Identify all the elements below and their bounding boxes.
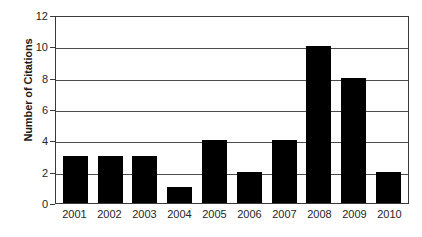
bar-slot — [371, 17, 406, 203]
x-tick-label-2004: 2004 — [162, 207, 197, 223]
bar-2006 — [237, 172, 262, 203]
x-tick-label-2001: 2001 — [57, 207, 92, 223]
bar-2001 — [63, 156, 88, 203]
bar-slot — [267, 17, 302, 203]
bar-2003 — [132, 156, 157, 203]
x-axis-labels: 2001200220032004200520062007200820092010 — [55, 207, 409, 223]
y-tick-mark — [50, 204, 55, 205]
x-tick-label-2010: 2010 — [372, 207, 407, 223]
bars-layer — [56, 17, 408, 203]
bar-slot — [162, 17, 197, 203]
plot-area — [55, 16, 409, 204]
citations-bar-chart: Number of Citations 024681012 2001200220… — [0, 0, 422, 237]
x-tick-label-2003: 2003 — [127, 207, 162, 223]
y-tick-label: 4 — [8, 136, 48, 146]
bar-slot — [58, 17, 93, 203]
bar-2004 — [167, 187, 192, 203]
bar-slot — [336, 17, 371, 203]
y-tick-label: 10 — [8, 42, 48, 52]
y-tick-label: 0 — [8, 199, 48, 209]
bar-slot — [232, 17, 267, 203]
x-tick-label-2009: 2009 — [337, 207, 372, 223]
bar-slot — [197, 17, 232, 203]
bar-2009 — [341, 78, 366, 203]
bar-slot — [93, 17, 128, 203]
bar-2005 — [202, 140, 227, 203]
bar-2008 — [306, 46, 331, 203]
x-tick-label-2002: 2002 — [92, 207, 127, 223]
y-tick-label: 12 — [8, 11, 48, 21]
x-tick-label-2008: 2008 — [302, 207, 337, 223]
bar-2010 — [376, 172, 401, 203]
x-tick-label-2005: 2005 — [197, 207, 232, 223]
bar-slot — [128, 17, 163, 203]
bar-2007 — [272, 140, 297, 203]
x-tick-label-2006: 2006 — [232, 207, 267, 223]
x-tick-label-2007: 2007 — [267, 207, 302, 223]
y-axis-title: Number of Citations — [20, 0, 36, 190]
y-tick-label: 2 — [8, 168, 48, 178]
bar-slot — [302, 17, 337, 203]
bar-2002 — [98, 156, 123, 203]
y-tick-label: 6 — [8, 105, 48, 115]
y-tick-label: 8 — [8, 74, 48, 84]
